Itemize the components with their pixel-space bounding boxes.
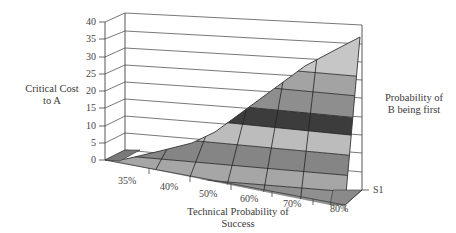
y-tick-10: 10 — [76, 120, 96, 131]
x-tick-80: 80% — [330, 203, 348, 214]
z-axis-title-line2: B being first — [376, 104, 452, 116]
y-axis-ticks — [99, 22, 105, 160]
z-axis-title: Probability of B being first — [376, 92, 452, 116]
series-label-s1: S1 — [373, 184, 384, 195]
surface-chart-plot — [0, 0, 456, 233]
x-axis-title-line1: Technical Probability of — [173, 206, 303, 218]
y-tick-0: 0 — [76, 154, 96, 165]
y-tick-35: 35 — [76, 33, 96, 44]
x-tick-35: 35% — [118, 175, 136, 186]
y-tick-5: 5 — [76, 137, 96, 148]
x-tick-50: 50% — [199, 188, 217, 199]
y-axis-title-line2: to A — [14, 95, 90, 107]
y-axis-title: Critical Cost to A — [14, 83, 90, 107]
x-tick-40: 40% — [160, 181, 178, 192]
y-tick-25: 25 — [76, 68, 96, 79]
x-axis-title-line2: Success — [173, 218, 303, 230]
x-axis-title: Technical Probability of Success — [173, 206, 303, 230]
x-tick-60: 60% — [240, 193, 258, 204]
side-wall-gridlines — [105, 13, 125, 160]
z-axis-title-line1: Probability of — [376, 92, 452, 104]
y-axis-title-line1: Critical Cost — [14, 83, 90, 95]
band-35-40 — [80, 0, 400, 80]
y-tick-30: 30 — [76, 51, 96, 62]
y-tick-40: 40 — [76, 16, 96, 27]
